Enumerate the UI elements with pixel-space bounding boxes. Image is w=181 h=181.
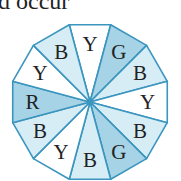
sector-label: G	[111, 40, 126, 64]
sector-label: Y	[33, 61, 48, 85]
sector-label: R	[25, 90, 39, 114]
sector-label: B	[33, 119, 47, 143]
sector-label: Y	[140, 90, 155, 114]
sector-label: B	[83, 148, 97, 172]
sector-label: B	[133, 61, 147, 85]
dodecagon-spinner: YGBYBGBYBRYB	[0, 0, 181, 181]
sector-label: G	[111, 140, 126, 164]
sector-label: B	[133, 119, 147, 143]
sector-label: Y	[82, 32, 97, 56]
center-point	[88, 100, 93, 105]
sector-label: Y	[54, 140, 69, 164]
sector-label: B	[54, 40, 68, 64]
